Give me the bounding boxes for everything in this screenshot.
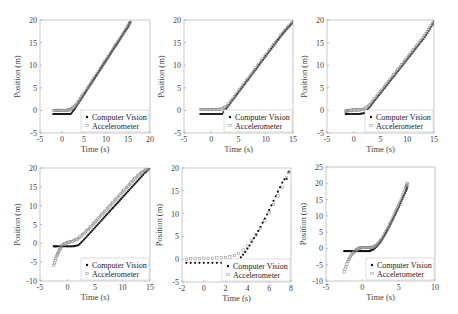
legend-label-accelerometer: Accelerometer (233, 271, 280, 280)
x-tick-label: 0 (352, 135, 356, 144)
y-axis-label: Position (m) (299, 55, 309, 97)
y-tick-label: 20 (29, 16, 37, 25)
legend: Computer VisionAccelerometer (222, 259, 290, 281)
legend-marker-computer-vision (86, 264, 88, 266)
x-axis-label: Time (s) (224, 144, 253, 154)
legend: Computer VisionAccelerometer (366, 258, 434, 280)
y-tick-label: 5 (175, 232, 179, 241)
x-tick-label: 15 (124, 135, 132, 144)
y-tick-label: 0 (320, 106, 324, 115)
x-tick-label: 10 (262, 135, 270, 144)
x-tick-label: 2 (224, 284, 228, 293)
legend-label-accelerometer: Accelerometer (92, 122, 139, 131)
y-axis-label: Position (m) (154, 204, 164, 246)
legend-label-accelerometer: Accelerometer (235, 122, 282, 131)
x-axis-label: Time (s) (222, 293, 251, 303)
x-axis-label: Time (s) (81, 292, 110, 302)
y-tick-label: 5 (319, 228, 323, 237)
legend-label-accelerometer: Accelerometer (92, 270, 139, 279)
legend-label-accelerometer: Accelerometer (377, 270, 424, 279)
x-axis-label: Time (s) (366, 144, 395, 154)
x-tick-label: 0 (209, 135, 213, 144)
x-tick-label: -2 (179, 284, 186, 293)
subplot-bottom-middle: -202468-505101520Time (s)Position (m)Com… (154, 164, 293, 303)
y-tick-label: 0 (175, 255, 179, 264)
x-tick-label: 15 (430, 135, 438, 144)
y-tick-label: 15 (171, 187, 179, 196)
y-axis-label: Position (m) (12, 203, 22, 245)
x-tick-label: 20 (146, 135, 154, 144)
y-tick-label: -10 (312, 277, 323, 286)
y-tick-label: 15 (315, 196, 323, 205)
legend-marker-computer-vision (227, 265, 229, 267)
y-tick-label: 10 (315, 212, 323, 221)
x-axis-label: Time (s) (366, 292, 395, 302)
x-tick-label: 15 (289, 135, 297, 144)
legend-label-accelerometer: Accelerometer (376, 122, 423, 131)
y-axis-label: Position (m) (156, 55, 166, 97)
legend-label-computer-vision: Computer Vision (92, 261, 147, 270)
legend-marker-computer-vision (86, 116, 88, 118)
subplot-top-left: -505101520-505101520Time (s)Position (m)… (12, 16, 154, 154)
x-tick-label: 15 (146, 283, 154, 292)
x-tick-label: 5 (397, 283, 401, 292)
x-tick-label: -5 (37, 135, 44, 144)
y-tick-label: 15 (316, 39, 324, 48)
y-tick-label: 5 (177, 84, 181, 93)
y-tick-label: -5 (317, 129, 324, 138)
legend: Computer VisionAccelerometer (81, 258, 149, 280)
y-tick-label: 20 (29, 164, 37, 173)
y-tick-label: -5 (172, 278, 179, 287)
legend-marker-computer-vision (370, 116, 372, 118)
x-tick-label: -5 (37, 283, 44, 292)
x-tick-label: 0 (60, 135, 64, 144)
y-tick-label: 0 (33, 106, 37, 115)
y-tick-label: 5 (320, 84, 324, 93)
legend-label-computer-vision: Computer Vision (235, 113, 290, 122)
subplot-bottom-right: -50510-10-50510152025Time (s)Position (m… (298, 163, 439, 302)
y-tick-label: 5 (33, 84, 37, 93)
y-tick-label: -5 (316, 261, 323, 270)
y-tick-label: 0 (33, 239, 37, 248)
legend-marker-computer-vision (371, 264, 373, 266)
x-tick-label: 0 (360, 283, 364, 292)
legend-marker-computer-vision (229, 116, 231, 118)
legend-label-computer-vision: Computer Vision (377, 261, 432, 270)
x-tick-label: 6 (267, 284, 271, 293)
legend-label-computer-vision: Computer Vision (233, 262, 288, 271)
x-tick-label: 0 (66, 283, 70, 292)
x-axis-label: Time (s) (81, 144, 110, 154)
y-tick-label: 20 (171, 164, 179, 173)
y-tick-label: 5 (33, 221, 37, 230)
x-tick-label: 4 (245, 284, 249, 293)
subplot-top-middle: -5051015-505101520Time (s)Position (m)Co… (156, 16, 297, 154)
y-axis-label: Position (m) (12, 55, 22, 97)
x-tick-label: 0 (202, 284, 206, 293)
y-tick-label: -5 (30, 258, 37, 267)
figure-canvas: -505101520-505101520Time (s)Position (m)… (0, 0, 458, 314)
x-tick-label: 10 (431, 283, 439, 292)
x-tick-label: 5 (93, 283, 97, 292)
y-axis-label: Position (m) (298, 203, 308, 245)
legend: Computer VisionAccelerometer (81, 110, 149, 132)
x-tick-label: 10 (119, 283, 127, 292)
x-tick-label: 10 (102, 135, 110, 144)
x-tick-label: 5 (82, 135, 86, 144)
legend: Computer VisionAccelerometer (224, 110, 292, 132)
x-tick-label: 5 (379, 135, 383, 144)
x-tick-label: -5 (324, 135, 331, 144)
y-tick-label: -5 (30, 129, 37, 138)
x-tick-label: 10 (403, 135, 411, 144)
y-tick-label: 10 (29, 61, 37, 70)
y-tick-label: -10 (26, 277, 37, 286)
y-tick-label: 25 (315, 163, 323, 172)
legend: Computer VisionAccelerometer (365, 110, 433, 132)
legend-label-computer-vision: Computer Vision (376, 113, 431, 122)
subplot-top-right: -5051015-505101520Time (s)Position (m)Co… (299, 16, 438, 154)
y-tick-label: 0 (177, 106, 181, 115)
y-tick-label: 20 (316, 16, 324, 25)
y-tick-label: 20 (173, 16, 181, 25)
legend-label-computer-vision: Computer Vision (92, 113, 147, 122)
x-tick-label: 8 (289, 284, 293, 293)
y-tick-label: 10 (171, 210, 179, 219)
